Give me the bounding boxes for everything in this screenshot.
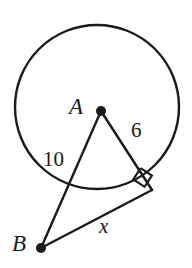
- vertex-dot-a: [96, 106, 106, 116]
- geometry-canvas: [0, 0, 192, 268]
- measure-label-radius: 6: [131, 120, 142, 141]
- circle-outline: [15, 25, 179, 189]
- measure-label-tangent-unknown: x: [99, 216, 108, 237]
- measure-label-hypotenuse: 10: [43, 149, 64, 170]
- segment-radius-a-to-tangent: [101, 111, 152, 190]
- geometry-figure: A B 6 10 x: [0, 0, 192, 268]
- point-label-b: B: [12, 232, 26, 255]
- segment-tangent-b-to-tangent: [41, 190, 152, 248]
- vertex-dot-b: [36, 243, 46, 253]
- segment-hypotenuse-a-to-b: [41, 111, 101, 248]
- point-label-a: A: [69, 95, 83, 118]
